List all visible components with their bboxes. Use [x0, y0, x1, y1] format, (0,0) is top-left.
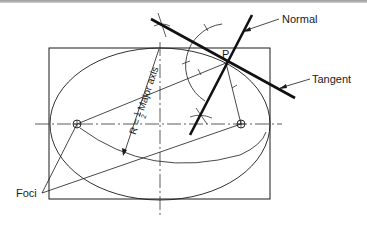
left-focus-marker-icon: [73, 120, 81, 128]
point-p-label: P: [222, 49, 229, 60]
radius-prefix: R =: [127, 115, 143, 136]
tangent-label: Tangent: [312, 74, 351, 85]
radius-arc: [80, 128, 266, 163]
tangent-arrowhead-icon: [279, 84, 287, 89]
ellipse-construction-diagram: [0, 0, 367, 225]
normal-line: [190, 15, 252, 135]
foci-label: Foci: [16, 188, 37, 199]
radius-arrowhead-icon: [122, 148, 127, 156]
normal-label: Normal: [282, 14, 317, 25]
tick-mark: [232, 85, 237, 88]
construction-arc: [186, 24, 222, 101]
right-focus-marker-icon: [237, 120, 245, 128]
focal-radius-right: [226, 63, 241, 124]
